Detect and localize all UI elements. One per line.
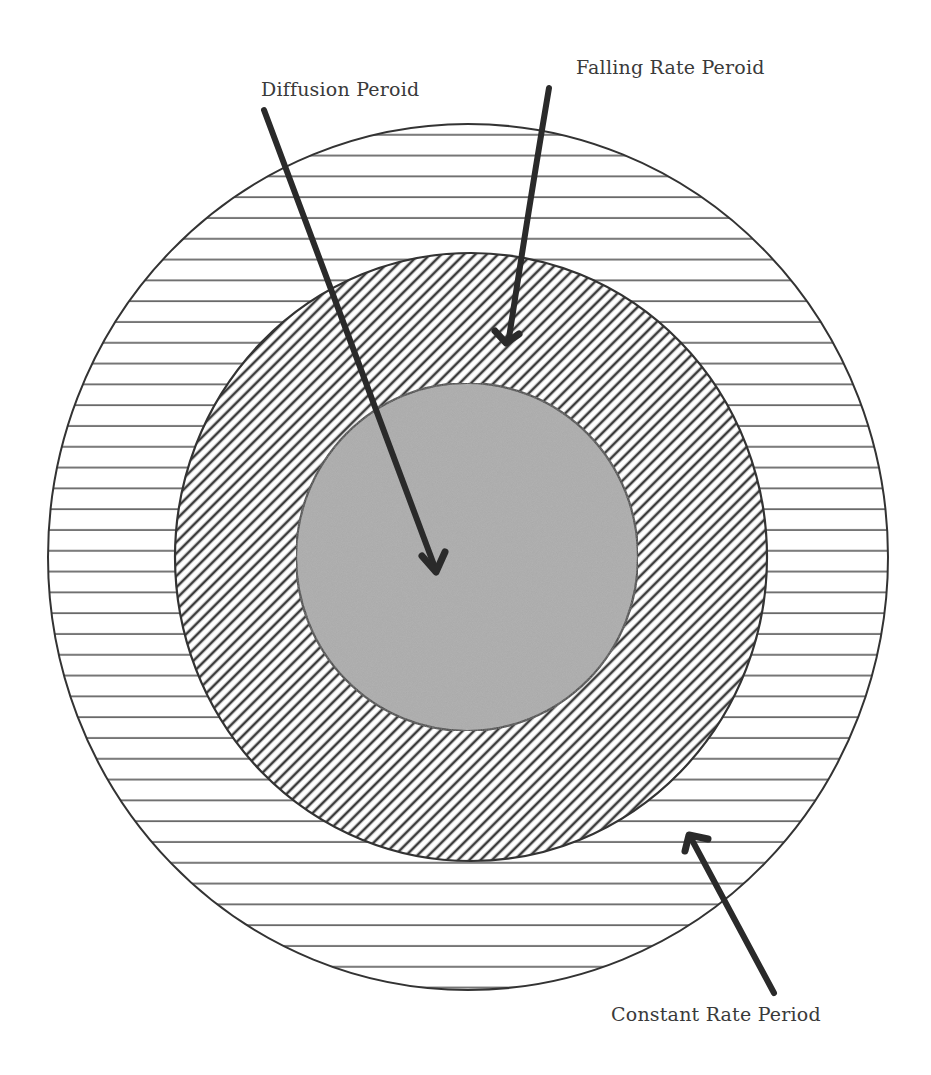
diffusion-zone [296,383,638,731]
diffusion-period-label: Diffusion Peroid [261,78,419,100]
falling-rate-period-label: Falling Rate Peroid [576,56,765,78]
drying-periods-diagram [0,0,931,1075]
constant-rate-period-label: Constant Rate Period [611,1003,821,1025]
